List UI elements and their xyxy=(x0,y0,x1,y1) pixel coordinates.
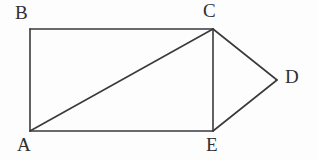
vertex-label-c: C xyxy=(203,1,216,20)
vertex-label-a: A xyxy=(17,135,31,154)
edge-cd-triangle-upper xyxy=(213,29,277,80)
geometry-figure: B C D A E xyxy=(0,0,318,160)
vertex-label-d: D xyxy=(285,67,299,86)
vertex-label-b: B xyxy=(15,3,28,22)
figure-canvas xyxy=(0,0,318,160)
vertex-label-e: E xyxy=(206,135,218,154)
edge-ed-triangle-lower xyxy=(213,80,277,131)
edge-ac-diagonal xyxy=(30,29,213,131)
